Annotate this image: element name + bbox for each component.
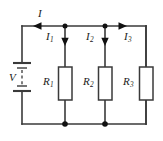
resistor-box-r2	[99, 67, 113, 100]
current-label-I2-sub: 2	[90, 36, 94, 44]
current-arrow-I	[33, 22, 42, 30]
source-label-V: V	[9, 72, 16, 83]
resistor-label-r2-base: R	[83, 75, 90, 87]
resistor-box-r3	[140, 67, 154, 100]
current-label-I3: I3	[124, 31, 131, 42]
resistor-label-r2: R2	[83, 76, 93, 87]
junction-node-bottom-1	[62, 121, 68, 127]
current-label-I1: I1	[46, 31, 53, 42]
resistor-label-r3-sub: 3	[130, 81, 134, 89]
resistor-label-r1-base: R	[43, 75, 50, 87]
resistor-group	[59, 67, 154, 100]
junction-node-top-1	[63, 24, 68, 29]
junction-node-top-2	[103, 24, 108, 29]
current-label-I2: I2	[86, 31, 93, 42]
resistor-label-r1: R1	[43, 76, 53, 87]
parallel-resistor-circuit-diagram: I I1 I2 I3 V R1 R2 R3	[0, 0, 163, 141]
resistor-box-r1	[59, 67, 73, 100]
resistor-label-r2-sub: 2	[90, 81, 94, 89]
resistor-label-r3: R3	[123, 76, 133, 87]
current-arrow-I1	[61, 38, 68, 46]
current-label-I: I	[38, 8, 42, 19]
current-arrow-I3	[119, 22, 128, 30]
circuit-schematic-canvas	[0, 0, 163, 141]
current-label-I3-sub: 3	[128, 36, 132, 44]
resistor-label-r3-base: R	[123, 75, 130, 87]
resistor-label-r1-sub: 1	[50, 81, 54, 89]
current-arrow-I2	[101, 38, 108, 46]
current-label-I1-sub: 1	[50, 36, 54, 44]
junction-node-bottom-2	[102, 121, 108, 127]
